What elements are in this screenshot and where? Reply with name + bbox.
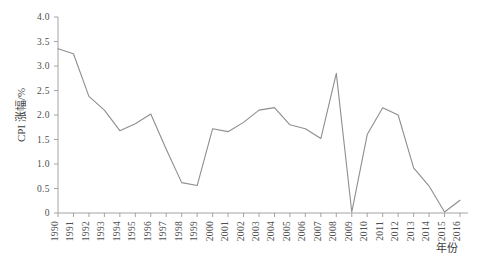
x-tick-label: 1998	[174, 221, 184, 241]
y-axis-ticks	[54, 17, 58, 213]
x-tick-label: 2013	[406, 221, 416, 241]
x-tick-label: 2007	[313, 221, 323, 241]
y-tick-label: 0.5	[37, 184, 50, 194]
x-tick-label: 2008	[328, 221, 338, 241]
x-tick-label: 2004	[266, 221, 276, 241]
x-tick-label: 2001	[220, 221, 230, 241]
chart-canvas: 00.51.01.52.02.53.03.54.0 19901991199219…	[0, 0, 488, 269]
y-tick-label: 1.5	[37, 135, 50, 145]
cpi-line-chart: 00.51.01.52.02.53.03.54.0 19901991199219…	[0, 0, 488, 269]
x-tick-label: 2015	[437, 221, 447, 241]
y-axis: 00.51.01.52.02.53.03.54.0	[37, 12, 58, 218]
x-tick-label: 1992	[81, 221, 91, 241]
y-axis-title: CPI 涨幅/%	[15, 88, 27, 142]
x-tick-label: 1994	[112, 221, 122, 241]
x-tick-label: 2011	[375, 221, 385, 241]
x-tick-label: 2010	[359, 221, 369, 241]
x-tick-label: 2006	[297, 221, 307, 241]
x-tick-label: 1996	[143, 221, 153, 241]
y-tick-label: 4.0	[37, 12, 50, 22]
x-tick-label: 1991	[65, 221, 75, 241]
y-tick-label: 0	[45, 208, 50, 218]
x-axis: 1990199119921993199419951996199719981999…	[50, 213, 468, 241]
x-axis-title: 年份	[436, 241, 458, 254]
x-axis-tick-labels: 1990199119921993199419951996199719981999…	[50, 221, 462, 241]
data-line-cpi	[58, 49, 460, 212]
y-tick-label: 1.0	[37, 159, 50, 169]
x-tick-label: 2009	[344, 221, 354, 241]
x-tick-label: 1993	[96, 221, 106, 241]
y-tick-label: 3.0	[37, 61, 50, 71]
x-tick-label: 1997	[158, 221, 168, 241]
x-tick-label: 2016	[452, 221, 462, 241]
x-tick-label: 2000	[205, 221, 215, 241]
x-tick-label: 2003	[251, 221, 261, 241]
y-tick-label: 2.0	[37, 110, 50, 120]
x-tick-label: 1990	[50, 221, 60, 241]
x-tick-label: 1999	[189, 221, 199, 241]
y-axis-tick-labels: 00.51.01.52.02.53.03.54.0	[37, 12, 50, 218]
x-tick-label: 2002	[236, 221, 246, 241]
x-tick-label: 1995	[127, 221, 137, 241]
y-tick-label: 3.5	[37, 37, 50, 47]
x-axis-ticks	[58, 213, 460, 217]
data-series-group	[58, 49, 460, 212]
x-tick-label: 2012	[390, 221, 400, 241]
y-tick-label: 2.5	[37, 86, 50, 96]
x-tick-label: 2014	[421, 221, 431, 241]
x-tick-label: 2005	[282, 221, 292, 241]
